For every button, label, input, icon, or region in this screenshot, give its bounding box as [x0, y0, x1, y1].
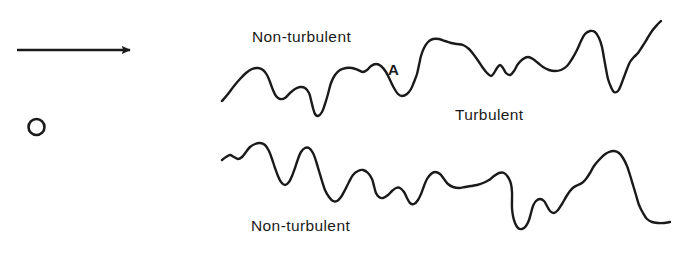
label-non-turbulent-bottom: Non-turbulent [251, 217, 350, 235]
label-turbulent: Turbulent [455, 106, 524, 124]
label-non-turbulent-top: Non-turbulent [252, 28, 351, 46]
figure-canvas: Non-turbulent Turbulent Non-turbulent A [0, 0, 681, 253]
circle-outline-icon [29, 119, 45, 135]
label-interface-point-a: A [388, 61, 399, 78]
